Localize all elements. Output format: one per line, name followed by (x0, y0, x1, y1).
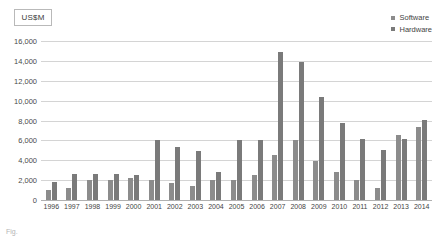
x-axis-tick-label: 2001 (144, 203, 165, 210)
bar-group (391, 41, 412, 200)
bar[interactable] (360, 139, 365, 200)
bar[interactable] (72, 174, 77, 200)
figure-caption: Fig. (6, 228, 18, 235)
bar[interactable] (319, 97, 324, 200)
bar[interactable] (402, 139, 407, 200)
square-marker-icon (391, 27, 395, 31)
y-axis-tick-label: 14,000 (3, 56, 37, 65)
y-axis-tick-label: 4,000 (3, 156, 37, 165)
x-axis-tick-label: 2009 (309, 203, 330, 210)
y-axis-tick-label: 8,000 (3, 116, 37, 125)
bar-group (185, 41, 206, 200)
bar[interactable] (128, 178, 133, 200)
bar[interactable] (422, 120, 427, 200)
bar[interactable] (134, 175, 139, 200)
bar[interactable] (169, 183, 174, 200)
bar[interactable] (354, 180, 359, 200)
x-axis-tick-label: 2000 (123, 203, 144, 210)
bar-group (329, 41, 350, 200)
bar-group (226, 41, 247, 200)
bar[interactable] (252, 175, 257, 200)
bar-group (370, 41, 391, 200)
bar-group (267, 41, 288, 200)
x-axis-tick-label: 1999 (103, 203, 124, 210)
bar-group (62, 41, 83, 200)
x-axis-labels: 1996199719981999200020012002200320042005… (41, 203, 432, 210)
x-axis-tick-label: 2013 (391, 203, 412, 210)
bar-group (123, 41, 144, 200)
bar[interactable] (381, 150, 386, 200)
bar[interactable] (375, 188, 380, 200)
y-axis-tick-label: 12,000 (3, 76, 37, 85)
bar[interactable] (313, 161, 318, 200)
bar-group (247, 41, 268, 200)
x-axis-tick-label: 2010 (329, 203, 350, 210)
bar[interactable] (175, 147, 180, 200)
bar[interactable] (93, 174, 98, 200)
bar-group (350, 41, 371, 200)
bar[interactable] (52, 182, 57, 200)
x-axis-tick-label: 1998 (82, 203, 103, 210)
bar[interactable] (114, 174, 119, 200)
y-axis-tick-label: 16,000 (3, 37, 37, 46)
bar[interactable] (299, 62, 304, 200)
x-axis-tick-label: 1997 (62, 203, 83, 210)
bar[interactable] (396, 135, 401, 200)
x-axis-line (41, 200, 432, 201)
x-axis-tick-label: 2008 (288, 203, 309, 210)
bar[interactable] (190, 186, 195, 200)
bar[interactable] (210, 180, 215, 200)
bar-group (41, 41, 62, 200)
bar[interactable] (272, 155, 277, 200)
legend-item-software[interactable]: Software (391, 14, 432, 22)
bar[interactable] (196, 151, 201, 200)
bar-chart: US$M Software Hardware 16,00014,00012,00… (0, 0, 438, 239)
bar-group (164, 41, 185, 200)
bar-group (288, 41, 309, 200)
bar-group (411, 41, 432, 200)
square-marker-icon (391, 16, 395, 20)
bar[interactable] (340, 123, 345, 201)
legend-item-label: Hardware (399, 26, 432, 34)
x-axis-tick-label: 2002 (164, 203, 185, 210)
legend-item-label: Software (399, 14, 429, 22)
bar[interactable] (46, 190, 51, 200)
bar[interactable] (334, 172, 339, 200)
y-axis-tick-label: 2,000 (3, 176, 37, 185)
bar[interactable] (278, 52, 283, 200)
x-axis-tick-label: 2012 (370, 203, 391, 210)
bar[interactable] (149, 180, 154, 200)
y-axis-tick-label: 0 (3, 196, 37, 205)
bar-group (82, 41, 103, 200)
bar[interactable] (293, 140, 298, 200)
y-axis-tick-label: 10,000 (3, 96, 37, 105)
bar[interactable] (216, 172, 221, 200)
bar[interactable] (66, 188, 71, 200)
bar-group (144, 41, 165, 200)
x-axis-tick-label: 2007 (267, 203, 288, 210)
bar-group (206, 41, 227, 200)
x-axis-tick-label: 2003 (185, 203, 206, 210)
x-axis-tick-label: 2011 (350, 203, 371, 210)
x-axis-tick-label: 2006 (247, 203, 268, 210)
bar[interactable] (258, 140, 263, 200)
bar-group (309, 41, 330, 200)
x-axis-tick-label: 2005 (226, 203, 247, 210)
bar-group (103, 41, 124, 200)
bar[interactable] (416, 127, 421, 200)
bar[interactable] (108, 180, 113, 200)
x-axis-tick-label: 2014 (411, 203, 432, 210)
x-axis-tick-label: 2004 (206, 203, 227, 210)
bar[interactable] (155, 140, 160, 200)
bar[interactable] (87, 180, 92, 200)
y-axis-labels: 16,00014,00012,00010,0008,0006,0004,0002… (0, 0, 37, 239)
bar-series-container (41, 41, 432, 200)
legend-item-hardware[interactable]: Hardware (391, 26, 432, 34)
x-axis-tick-label: 1996 (41, 203, 62, 210)
bar[interactable] (237, 140, 242, 200)
bar[interactable] (231, 180, 236, 200)
y-axis-tick-label: 6,000 (3, 136, 37, 145)
chart-legend: Software Hardware (391, 14, 432, 33)
